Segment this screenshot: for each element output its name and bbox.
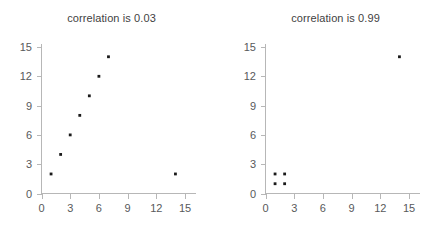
y-tick-label-left-1: 3 — [26, 158, 32, 170]
data-point — [274, 182, 277, 185]
data-point — [283, 173, 286, 176]
x-tick-label-right-0: 0 — [262, 202, 268, 214]
x-tick-labels-right: 03691215 — [262, 202, 415, 214]
y-tick-label-right-4: 12 — [244, 70, 256, 82]
x-tick-labels-left: 03691215 — [38, 202, 191, 214]
y-tick-label-right-1: 3 — [250, 158, 256, 170]
data-points-left — [50, 55, 177, 175]
y-tick-label-left-0: 0 — [26, 188, 32, 200]
y-tick-label-left-2: 6 — [26, 129, 32, 141]
y-tick-label-left-4: 12 — [20, 70, 32, 82]
y-tick-label-left-5: 15 — [20, 41, 32, 53]
data-point — [98, 75, 101, 78]
data-point — [174, 173, 177, 176]
x-tick-label-left-1: 3 — [67, 202, 73, 214]
x-tick-label-right-2: 6 — [320, 202, 326, 214]
data-point — [78, 114, 81, 117]
chart-panel-left: correlation is 0.03 03691215 03691215 — [0, 0, 223, 231]
data-point — [107, 55, 110, 58]
data-point — [88, 94, 91, 97]
y-tick-label-right-0: 0 — [250, 188, 256, 200]
y-tick-marks-right — [261, 48, 266, 195]
plot-area-right: 03691215 03691215 — [224, 0, 447, 231]
y-tick-label-right-2: 6 — [250, 129, 256, 141]
data-point — [283, 182, 286, 185]
x-tick-label-left-0: 0 — [38, 202, 44, 214]
x-tick-label-left-3: 9 — [125, 202, 131, 214]
x-tick-label-left-5: 15 — [179, 202, 191, 214]
scatter-plot-figure: correlation is 0.03 03691215 03691215 co… — [0, 0, 447, 231]
x-tick-label-right-1: 3 — [291, 202, 297, 214]
y-tick-marks-left — [37, 48, 42, 195]
y-tick-label-right-5: 15 — [244, 41, 256, 53]
chart-panel-right: correlation is 0.99 03691215 03691215 — [224, 0, 447, 231]
data-point — [398, 55, 401, 58]
data-point — [59, 153, 62, 156]
plot-area-left: 03691215 03691215 — [0, 0, 223, 231]
x-tick-label-right-3: 9 — [349, 202, 355, 214]
y-tick-label-right-3: 9 — [250, 100, 256, 112]
y-tick-labels-left: 03691215 — [20, 41, 32, 200]
data-point — [69, 134, 72, 137]
y-tick-label-left-3: 9 — [26, 100, 32, 112]
x-tick-marks-right — [266, 194, 410, 200]
x-tick-marks-left — [42, 194, 186, 200]
x-tick-label-left-4: 12 — [150, 202, 162, 214]
x-tick-label-right-5: 15 — [403, 202, 415, 214]
data-point — [274, 173, 277, 176]
data-points-right — [274, 55, 401, 185]
x-tick-label-right-4: 12 — [374, 202, 386, 214]
y-tick-labels-right: 03691215 — [244, 41, 256, 200]
x-tick-label-left-2: 6 — [96, 202, 102, 214]
data-point — [50, 173, 53, 176]
